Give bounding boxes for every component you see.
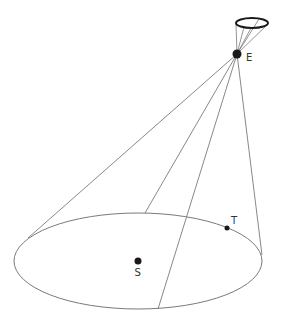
point-t-dot bbox=[225, 226, 230, 231]
cone-line-top bbox=[145, 54, 237, 213]
cone-line-right bbox=[237, 54, 262, 255]
diagram-canvas: E T S bbox=[0, 0, 286, 319]
point-s-dot bbox=[135, 258, 142, 265]
cone-line-bottom bbox=[158, 54, 237, 309]
cone-line-left bbox=[28, 54, 237, 238]
point-s-label: S bbox=[135, 267, 141, 278]
point-t-label: T bbox=[230, 215, 238, 226]
cone-diagram: E T S bbox=[0, 0, 286, 319]
lens-line-4 bbox=[237, 19, 259, 54]
cone-lines bbox=[28, 54, 262, 309]
lens-ellipse bbox=[236, 18, 268, 28]
lens-lines bbox=[236, 19, 268, 54]
point-e-label: E bbox=[246, 52, 252, 63]
lens-line-1 bbox=[236, 24, 237, 54]
point-e-dot bbox=[233, 50, 242, 59]
